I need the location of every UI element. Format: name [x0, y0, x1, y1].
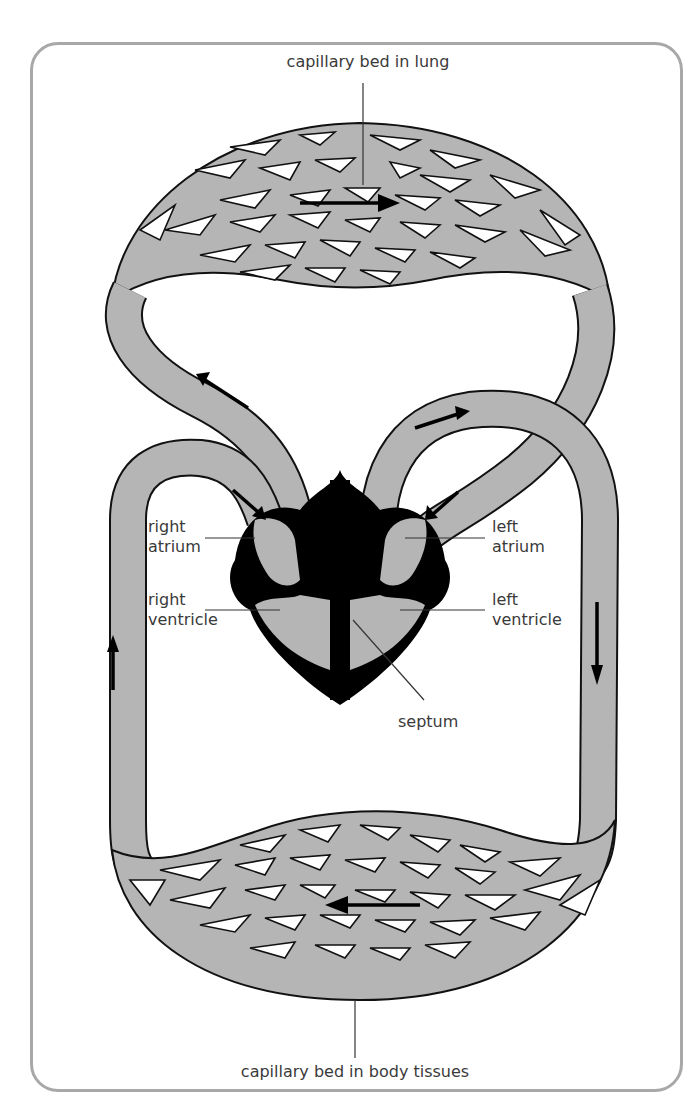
lung-capillary-bed — [112, 123, 610, 300]
label-body-capillary-bed: capillary bed in body tissues — [241, 1062, 469, 1082]
label-right-ventricle-line2: ventricle — [148, 610, 218, 630]
label-lung-capillary-bed: capillary bed in lung — [287, 52, 450, 72]
label-left-ventricle-line2: ventricle — [492, 610, 562, 630]
label-septum: septum — [398, 712, 458, 732]
label-right-ventricle-line1: right — [148, 590, 186, 610]
label-right-atrium-line2: atrium — [148, 537, 201, 557]
label-left-ventricle-line1: left — [492, 590, 518, 610]
double-circulation-diagram — [0, 0, 700, 1112]
body-capillary-bed — [112, 811, 615, 1000]
label-right-atrium-line1: right — [148, 517, 186, 537]
septum-wall — [330, 480, 350, 700]
label-left-atrium-line1: left — [492, 517, 518, 537]
label-left-atrium-line2: atrium — [492, 537, 545, 557]
